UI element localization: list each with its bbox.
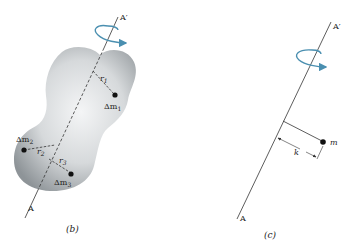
mass-dot-1 — [112, 92, 117, 97]
axis-label-top-b: A′ — [119, 13, 128, 22]
axis-line-c — [237, 22, 331, 219]
mass-dot-m — [320, 139, 326, 145]
caption-c: (c) — [264, 230, 277, 240]
k-extension — [317, 146, 323, 159]
axis-label-bottom-b: A — [27, 204, 34, 213]
k-label: k — [294, 148, 299, 157]
mass-dot-2 — [21, 147, 26, 152]
mass-label-m: m — [330, 138, 338, 147]
rigid-body-shape — [14, 47, 136, 191]
figure-b: r1 Δm1 Δm2 r2 r3 Δm3 A′ A (b) — [14, 13, 136, 234]
figure-c: m k A′ A (c) — [237, 22, 341, 240]
caption-b: (b) — [66, 224, 79, 234]
axis-line-top — [104, 17, 118, 48]
k-dimension-right — [306, 152, 316, 157]
rotation-arrow-icon — [297, 50, 326, 67]
axis-label-bottom-c: A — [239, 214, 246, 223]
axis-label-top-c: A′ — [332, 22, 341, 31]
mass-dot-3 — [68, 171, 73, 176]
gyration-line — [283, 121, 322, 141]
inertia-diagram: r1 Δm1 Δm2 r2 r3 Δm3 A′ A (b) — [0, 0, 353, 247]
